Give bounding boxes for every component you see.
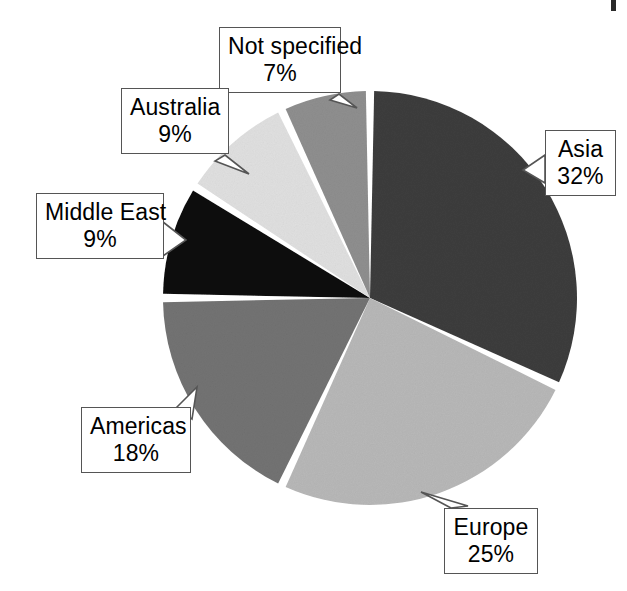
callout-europe[interactable]: Europe 25% [444,508,538,574]
callout-asia-label: Asia [554,136,607,163]
callout-americas-label: Americas [90,413,182,440]
callout-americas-value: 18% [90,440,182,467]
callout-middle-east-label: Middle East [45,199,155,226]
callout-not-specified[interactable]: Not specified 7% [219,27,341,93]
callout-middle-east-value: 9% [45,226,155,253]
callout-not-specified-value: 7% [228,60,332,87]
callout-europe-label: Europe [453,514,529,541]
callout-americas[interactable]: Americas 18% [81,407,191,473]
callout-middle-east[interactable]: Middle East 9% [36,193,164,259]
callout-asia[interactable]: Asia 32% [545,130,616,196]
scan-artifact-mark [611,0,616,11]
callout-not-specified-label: Not specified [228,33,332,60]
callout-asia-value: 32% [554,163,607,190]
leader-europe [421,492,468,508]
callout-australia[interactable]: Australia 9% [121,88,229,154]
callout-europe-value: 25% [453,541,529,568]
pie-chart-figure: Not specified 7% Australia 9% Middle Eas… [0,0,627,591]
callout-australia-value: 9% [130,121,220,148]
callout-australia-label: Australia [130,94,220,121]
